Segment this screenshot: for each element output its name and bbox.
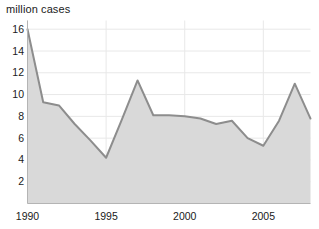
chart-container: million cases 161412108642 1990199520002… — [0, 0, 319, 229]
x-axis-ticks: 1990199520002005 — [0, 0, 319, 229]
x-axis-tick-label: 2005 — [252, 211, 275, 222]
x-axis-tick-label: 2000 — [173, 211, 196, 222]
x-axis-tick-label: 1995 — [94, 211, 117, 222]
x-axis-tick-label: 1990 — [16, 211, 39, 222]
